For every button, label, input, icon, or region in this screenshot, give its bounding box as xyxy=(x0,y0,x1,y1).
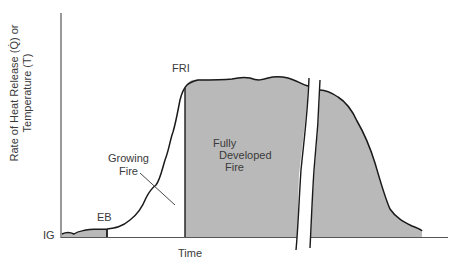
label-eb: EB xyxy=(97,211,112,223)
label-growing-fire-2: Fire xyxy=(119,165,138,177)
fire-curve-diagram xyxy=(0,0,468,271)
decay-shaded-area xyxy=(311,90,422,237)
y-axis-label-line2: Temperature (T) xyxy=(21,18,34,168)
label-fully-developed-1: Fully xyxy=(213,137,236,149)
label-fully-developed-2: Developed xyxy=(219,149,272,161)
x-axis-label: Time xyxy=(178,247,202,259)
label-fully-developed-3: Fire xyxy=(225,161,244,173)
label-growing-fire-1: Growing xyxy=(108,152,149,164)
label-fri: FRI xyxy=(172,62,190,74)
label-ig: IG xyxy=(43,229,55,241)
y-axis-label-line1: Rate of Heat Release (Q̇) or xyxy=(8,18,21,168)
y-axis-label: Rate of Heat Release (Q̇) or Temperature… xyxy=(8,18,34,168)
